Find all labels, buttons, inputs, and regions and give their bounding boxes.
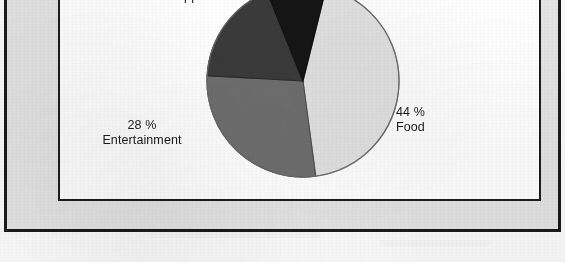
pie-label-entertainment-category: Entertainment	[62, 133, 222, 148]
pie-label-supplies: Supplies	[128, 0, 258, 4]
pie-label-entertainment-percent: 28 %	[62, 118, 222, 133]
pie-label-entertainment: 28 % Entertainment	[62, 118, 222, 148]
figure-inner-panel	[58, 0, 541, 201]
pie-label-food-percent: 44 %	[396, 105, 488, 120]
pie-label-food-category: Food	[396, 120, 488, 135]
pie-label-supplies-category: Supplies	[128, 0, 258, 4]
scanned-page: Supplies 28 % Entertainment 44 % Food	[0, 0, 565, 262]
pie-label-food: 44 % Food	[396, 105, 488, 135]
